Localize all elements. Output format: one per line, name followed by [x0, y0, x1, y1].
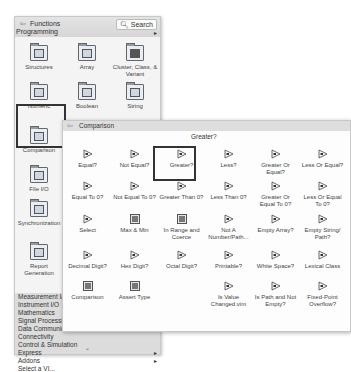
item-label: Less Or Equal?: [302, 162, 343, 168]
item-label: Greater Than 0?: [160, 194, 204, 200]
cluster-icon: [126, 45, 144, 61]
comparison-node-icon: [83, 250, 93, 260]
comparison-node-icon: [271, 250, 281, 260]
search-button[interactable]: 🔍︎ Search: [116, 19, 157, 30]
item-label: Not Equal?: [120, 162, 150, 168]
comparison-function-item[interactable]: Less Or Equal To 0?: [300, 181, 345, 208]
subpalette-title: Comparison: [79, 122, 114, 129]
comparison-node-icon: [318, 250, 328, 260]
list-label: Mathematics: [18, 309, 55, 316]
item-label: Max & Min: [120, 227, 148, 233]
comparison-function-item[interactable]: Empty String/ Path?: [300, 214, 345, 241]
comparison-node-icon: [83, 181, 93, 191]
item-label: Lexical Class: [305, 263, 340, 269]
palette-item-synchronization[interactable]: Synchronization: [16, 201, 62, 227]
comparison-function-item[interactable]: Is Value Changed.vim: [206, 281, 251, 308]
comparison-function-item[interactable]: White Space?: [253, 250, 298, 270]
comparison-function-item[interactable]: Less Than 0?: [206, 181, 251, 201]
item-label: Less Or Equal To 0?: [303, 194, 341, 207]
submenu-arrow-icon: ▸: [154, 357, 157, 365]
structures-icon: [30, 45, 48, 61]
comparison-node-icon: [83, 214, 93, 224]
palette-item-string[interactable]: String: [112, 84, 158, 110]
list-label: Select a VI...: [18, 365, 55, 372]
item-label: Is Value Changed.vim: [211, 294, 246, 307]
comparison-function-item[interactable]: Printable?: [206, 250, 251, 270]
comparison-function-item[interactable]: Lexical Class: [300, 250, 345, 270]
string-icon: [126, 84, 144, 100]
list-item[interactable]: Select a VI...: [15, 365, 160, 372]
item-label: Report Generation: [24, 263, 54, 276]
item-label: Comparison: [71, 294, 103, 300]
comparison-function-item[interactable]: Comparison: [65, 281, 110, 301]
comparison-node-icon: [318, 214, 328, 224]
expand-more-icon[interactable]: ⌄: [15, 344, 160, 351]
item-label: Printable?: [215, 263, 242, 269]
selected-highlight: [16, 104, 66, 148]
item-label: Select: [79, 227, 96, 233]
list-label: Addons: [18, 357, 40, 364]
palette-header: ⇦ Functions Programming 🔍︎ Search ▸: [15, 17, 160, 37]
item-label: Greater Or Equal To 0?: [260, 194, 292, 207]
comparison-function-item[interactable]: In Range and Coerce: [159, 214, 204, 241]
list-item[interactable]: Addons▸: [15, 357, 160, 365]
comparison-function-item[interactable]: Fixed-Point Overflow?: [300, 281, 345, 308]
category-arrow-icon[interactable]: ▸: [154, 29, 157, 36]
report-icon: [30, 244, 48, 260]
item-label: Decimal Digit?: [68, 263, 107, 269]
comparison-function-item[interactable]: Less Or Equal?: [300, 149, 345, 169]
palette-item-report-generation[interactable]: Report Generation: [16, 244, 62, 277]
list-label: Measurement I/O: [18, 293, 68, 300]
comparison-function-item[interactable]: Greater Or Equal To 0?: [253, 181, 298, 208]
item-label: String: [127, 103, 143, 109]
comparison-function-item[interactable]: Greater Or Equal?: [253, 149, 298, 176]
item-label: Synchronization: [18, 220, 61, 226]
item-label: Not Equal To 0?: [113, 194, 156, 200]
comparison-function-item[interactable]: Not Equal To 0?: [112, 181, 157, 201]
item-label: Less Than 0?: [210, 194, 246, 200]
comparison-function-item[interactable]: Empty Array?: [253, 214, 298, 234]
palette-item-structures[interactable]: Structures: [16, 45, 62, 71]
item-label: Not A Number/Path...: [208, 227, 248, 240]
comparison-function-item[interactable]: Equal To 0?: [65, 181, 110, 201]
palette-item-file-io[interactable]: File I/O: [16, 167, 62, 193]
back-arrow-icon[interactable]: ⇦: [20, 20, 26, 28]
comparison-node-icon: [177, 181, 187, 191]
comparison-function-item[interactable]: Max & Min: [112, 214, 157, 234]
back-arrow-icon[interactable]: ⇦: [67, 122, 73, 130]
item-label: Hex Digit?: [121, 263, 149, 269]
comparison-function-item[interactable]: Octal Digit?: [159, 250, 204, 270]
comparison-function-item[interactable]: Hex Digit?: [112, 250, 157, 270]
comparison-node-icon: [271, 214, 281, 224]
item-label: Cluster, Class, & Variant: [113, 64, 157, 77]
comparison-node-icon: [318, 181, 328, 191]
comparison-node-icon: [224, 214, 234, 224]
comparison-function-item[interactable]: Equal?: [65, 149, 110, 169]
comparison-node-icon: [83, 149, 93, 159]
item-label: Empty String/ Path?: [304, 227, 340, 240]
array-icon: [78, 45, 96, 61]
comparison-function-item[interactable]: Assert Type: [112, 281, 157, 301]
item-label: In Range and Coerce: [163, 227, 199, 240]
subpalette-icon: [130, 214, 140, 224]
comparison-node-icon: [224, 149, 234, 159]
list-item[interactable]: Connectivity: [15, 333, 160, 341]
comparison-function-item[interactable]: Not Equal?: [112, 149, 157, 169]
comparison-function-item[interactable]: Less?: [206, 149, 251, 169]
comparison-node-icon: [130, 181, 140, 191]
item-label: Equal?: [78, 162, 97, 168]
palette-item-boolean[interactable]: Boolean: [64, 84, 110, 110]
comparison-function-item[interactable]: Decimal Digit?: [65, 250, 110, 270]
file-io-icon: [30, 167, 48, 183]
comparison-function-item[interactable]: Not A Number/Path...: [206, 214, 251, 241]
comparison-function-item[interactable]: Greater Than 0?: [159, 181, 204, 201]
comparison-function-item[interactable]: Is Path and Not Empty?: [253, 281, 298, 308]
palette-title: Functions: [30, 20, 60, 27]
palette-item-array[interactable]: Array: [64, 45, 110, 71]
item-label: Fixed-Point Overflow?: [307, 294, 337, 307]
comparison-function-item[interactable]: Select: [65, 214, 110, 234]
comparison-node-icon: [177, 250, 187, 260]
palette-item-cluster[interactable]: Cluster, Class, & Variant: [112, 45, 158, 78]
item-label: Structures: [25, 64, 52, 70]
list-label: Instrument I/O: [18, 301, 59, 308]
